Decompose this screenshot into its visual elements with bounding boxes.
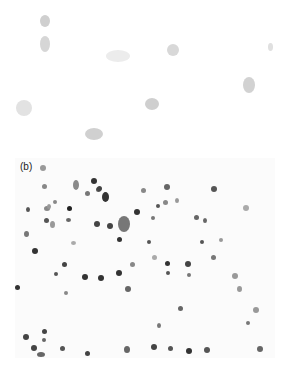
cell: [62, 262, 67, 267]
cell: [125, 286, 131, 292]
cell: [194, 215, 199, 220]
cell: [130, 262, 135, 267]
cell: [167, 44, 179, 56]
cell: [157, 323, 161, 328]
cell: [156, 204, 160, 208]
cell: [253, 307, 259, 313]
cell: [42, 329, 47, 334]
cell: [106, 50, 130, 62]
cell: [145, 98, 159, 110]
cell: [246, 321, 250, 325]
cell: [164, 184, 170, 190]
cell: [23, 334, 29, 340]
cell: [147, 240, 151, 244]
cell: [40, 165, 46, 171]
cell: [219, 238, 223, 242]
cell: [40, 36, 50, 52]
cell: [16, 100, 32, 116]
micrograph-panel-b: (b): [15, 158, 275, 358]
cell: [257, 346, 263, 352]
cell: [54, 272, 58, 276]
cell: [37, 352, 45, 357]
cell: [211, 186, 217, 192]
cell: [91, 178, 97, 184]
cell: [203, 218, 207, 223]
cell: [237, 286, 242, 292]
cell: [200, 240, 204, 244]
cell: [187, 273, 191, 277]
cell: [60, 346, 65, 351]
cell: [243, 77, 255, 93]
cell: [50, 221, 55, 228]
cell: [32, 248, 38, 254]
cell: [152, 255, 157, 260]
cell: [42, 184, 47, 189]
cell: [85, 191, 90, 196]
cell: [211, 255, 216, 260]
cell: [31, 345, 37, 351]
cell: [66, 218, 71, 222]
cell: [64, 291, 68, 295]
cell: [163, 200, 168, 205]
cell: [71, 241, 76, 245]
cell: [26, 207, 30, 212]
cell: [151, 216, 155, 220]
micrograph-panel-a: [0, 0, 294, 150]
panel-label-b: (b): [20, 161, 32, 172]
cell: [118, 216, 130, 232]
cell: [73, 180, 79, 190]
cell: [85, 128, 103, 140]
cell: [15, 285, 20, 290]
cell: [165, 261, 170, 266]
cell: [204, 347, 210, 353]
cell: [185, 261, 191, 267]
cell: [134, 209, 140, 215]
cell: [117, 237, 122, 242]
cell: [102, 192, 109, 202]
cell: [107, 223, 113, 229]
cell: [141, 188, 146, 193]
cell: [175, 198, 179, 203]
cell: [82, 274, 88, 280]
cell: [24, 231, 29, 237]
cell: [85, 351, 90, 356]
cell: [186, 348, 192, 354]
cell: [97, 186, 102, 191]
cell: [168, 346, 173, 351]
cell: [94, 221, 100, 227]
cell: [124, 346, 130, 353]
cell: [166, 271, 170, 275]
cell: [151, 344, 157, 350]
cell: [243, 205, 249, 211]
cell: [268, 43, 273, 51]
cell: [67, 206, 72, 211]
cell: [42, 338, 46, 342]
cell: [44, 218, 49, 223]
cell: [98, 275, 104, 281]
cell: [47, 204, 51, 209]
cell: [232, 273, 238, 279]
cell: [116, 270, 122, 276]
cell: [40, 15, 50, 27]
cell: [178, 306, 183, 311]
cell: [53, 200, 57, 204]
